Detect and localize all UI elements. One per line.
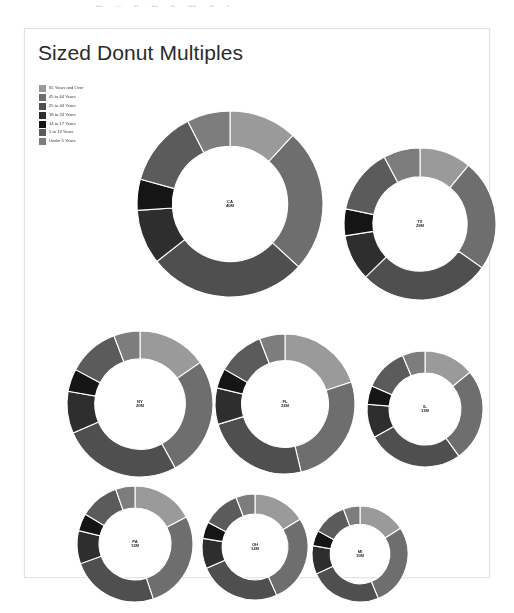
- donut-segment[interactable]: [268, 519, 308, 595]
- donut-segment[interactable]: [73, 422, 175, 477]
- legend-swatch-icon: [39, 94, 46, 101]
- screenshot-root: •••—•••••••••••••• Sized Donut Multiples…: [0, 0, 514, 613]
- legend-item-label: Under 5 Years: [49, 138, 75, 145]
- legend-swatch-icon: [39, 85, 46, 92]
- donut-segment[interactable]: [285, 334, 351, 390]
- toolbar-fragment: ••: [134, 3, 138, 9]
- legend: 65 Years and Over45 to 64 Years25 to 44 …: [39, 84, 111, 146]
- toolbar-fragment: ••: [209, 3, 213, 9]
- donut-segment[interactable]: [146, 517, 193, 599]
- legend-item[interactable]: 25 to 44 Years: [39, 102, 111, 111]
- legend-swatch-icon: [39, 138, 46, 145]
- legend-item[interactable]: 5 to 13 Years: [39, 128, 111, 137]
- legend-swatch-icon: [39, 112, 46, 119]
- donut-segment[interactable]: [371, 528, 408, 598]
- donut-segment[interactable]: [157, 240, 299, 297]
- donut-segment[interactable]: [374, 427, 458, 467]
- legend-swatch-icon: [39, 121, 46, 128]
- legend-item-label: 65 Years and Over: [49, 85, 84, 92]
- legend-item[interactable]: 18 to 24 Years: [39, 111, 111, 120]
- donut-segment[interactable]: [316, 566, 378, 602]
- donut-segment[interactable]: [206, 560, 276, 600]
- donut-chart-tx[interactable]: TX29M: [342, 146, 498, 302]
- legend-swatch-icon: [39, 129, 46, 136]
- donut-segment[interactable]: [218, 417, 301, 474]
- toolbar-fragment: ••••: [188, 3, 196, 9]
- donut-segment[interactable]: [80, 556, 153, 602]
- toolbar-fragment: ••: [171, 3, 175, 9]
- toolbar-fragment: •: [227, 3, 229, 9]
- legend-item-label: 18 to 24 Years: [49, 112, 76, 119]
- donut-chart-oh[interactable]: OH12M: [200, 492, 310, 602]
- toolbar-fragment: •••: [152, 3, 158, 9]
- page-title: Sized Donut Multiples: [38, 41, 243, 65]
- legend-item-label: 5 to 13 Years: [49, 130, 73, 137]
- legend-item[interactable]: 45 to 64 Years: [39, 93, 111, 102]
- toolbar-fragment: —: [115, 3, 121, 9]
- toolbar-fragment: •••: [96, 3, 102, 9]
- legend-item[interactable]: Under 5 Years: [39, 137, 111, 146]
- donut-chart-ca[interactable]: CA40M: [135, 109, 325, 299]
- chart-panel: Sized Donut Multiples 65 Years and Over4…: [24, 28, 490, 578]
- donut-segment[interactable]: [295, 382, 355, 472]
- legend-item-label: 25 to 44 Years: [49, 103, 76, 110]
- cropped-toolbar-sliver: •••—••••••••••••••: [0, 0, 514, 12]
- legend-item-label: 14 to 17 Years: [49, 121, 76, 128]
- donut-chart-fl[interactable]: FL22M: [213, 332, 357, 476]
- legend-item[interactable]: 65 Years and Over: [39, 84, 111, 93]
- legend-swatch-icon: [39, 103, 46, 110]
- legend-item-label: 45 to 64 Years: [49, 94, 76, 101]
- donut-chart-il[interactable]: IL13M: [365, 349, 485, 469]
- donut-chart-mi[interactable]: MI10M: [310, 504, 410, 604]
- legend-item[interactable]: 14 to 17 Years: [39, 120, 111, 129]
- donut-chart-pa[interactable]: PA13M: [75, 484, 195, 604]
- donut-chart-ny[interactable]: NY20M: [65, 329, 215, 479]
- donut-segment[interactable]: [162, 363, 213, 468]
